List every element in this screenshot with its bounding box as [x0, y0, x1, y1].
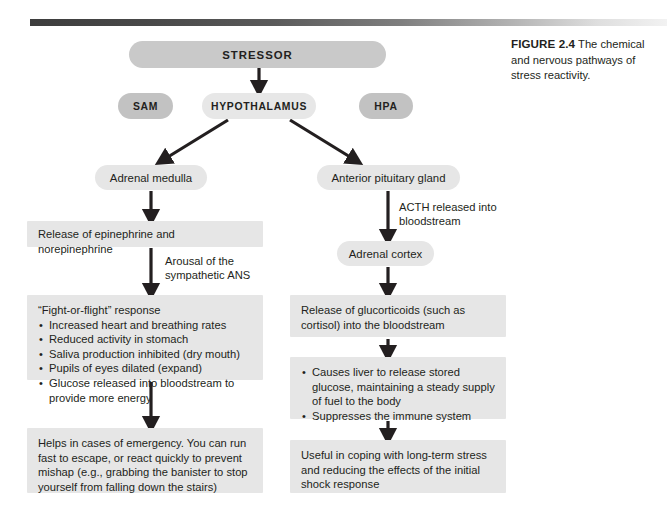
- box-glucocorticoids-release[interactable]: Release of glucorticoids (such as cortis…: [290, 295, 506, 337]
- list-item: Causes liver to release stored glucose, …: [301, 365, 495, 409]
- list-item: Increased heart and breathing rates: [38, 318, 252, 333]
- figure-number: FIGURE 2.4: [511, 37, 575, 50]
- list-item: Glucose released into bloodstream to pro…: [38, 376, 252, 405]
- box-glucocorticoid-effects-bullets: Causes liver to release stored glucose, …: [301, 365, 495, 423]
- node-sam[interactable]: SAM: [118, 93, 173, 119]
- list-item: Pupils of eyes dilated (expand): [38, 361, 252, 376]
- box-epinephrine-text: Release of epinephrine and norepinephrin…: [38, 227, 252, 256]
- list-item: Suppresses the immune system: [301, 409, 495, 424]
- box-fight-or-flight[interactable]: “Fight-or-flight” response Increased hea…: [27, 295, 263, 380]
- arrow-hypothalamus-to-adrenal-medulla: [163, 120, 228, 160]
- node-adrenal-medulla[interactable]: Adrenal medulla: [95, 165, 207, 190]
- figure-caption: FIGURE 2.4 The chemical and nervous path…: [511, 36, 661, 84]
- figure-page: FIGURE 2.4 The chemical and nervous path…: [0, 0, 667, 524]
- box-epinephrine-release[interactable]: Release of epinephrine and norepinephrin…: [27, 221, 263, 247]
- box-fight-or-flight-title: “Fight-or-flight” response: [38, 303, 252, 318]
- node-stressor[interactable]: STRESSOR: [129, 41, 386, 68]
- edge-label-arousal: Arousal of the sympathetic ANS: [165, 254, 275, 282]
- node-adrenal-cortex[interactable]: Adrenal cortex: [337, 241, 434, 266]
- box-glucocorticoids-text: Release of glucorticoids (such as cortis…: [301, 303, 495, 332]
- list-item: Saliva production inhibited (dry mouth): [38, 347, 252, 362]
- box-helps-text: Helps in cases of emergency. You can run…: [38, 436, 252, 494]
- arrow-hypothalamus-to-anterior-pituitary: [290, 120, 355, 160]
- node-hpa[interactable]: HPA: [359, 93, 413, 119]
- header-rule: [30, 19, 667, 26]
- box-helps-in-emergency[interactable]: Helps in cases of emergency. You can run…: [27, 428, 263, 493]
- box-fight-or-flight-bullets: Increased heart and breathing rates Redu…: [38, 318, 252, 406]
- node-hypothalamus[interactable]: HYPOTHALAMUS: [202, 93, 316, 119]
- box-useful-text: Useful in coping with long-term stress a…: [301, 448, 495, 492]
- box-useful-in-coping[interactable]: Useful in coping with long-term stress a…: [290, 440, 506, 493]
- node-anterior-pituitary[interactable]: Anterior pituitary gland: [317, 165, 460, 190]
- list-item: Reduced activity in stomach: [38, 332, 252, 347]
- box-glucocorticoid-effects[interactable]: Causes liver to release stored glucose, …: [290, 357, 506, 419]
- edge-label-acth: ACTH released into bloodstream: [399, 200, 509, 228]
